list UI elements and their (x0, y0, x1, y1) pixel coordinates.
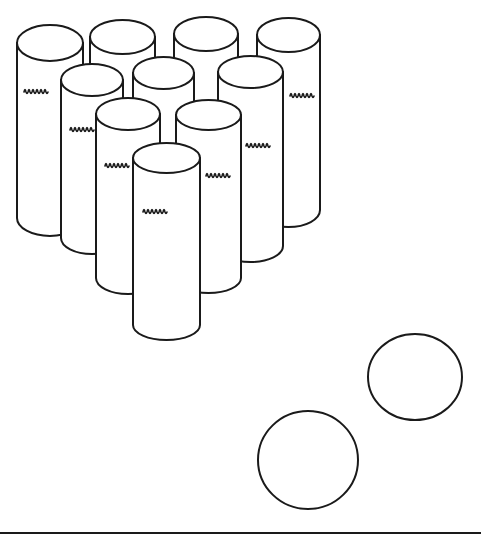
ball-near (258, 411, 358, 509)
bowling-pins-group (17, 17, 320, 340)
bowling-pin-front (133, 143, 200, 340)
bowling-scene-drawing (0, 0, 481, 538)
ball-far (368, 334, 462, 420)
balls-group (258, 334, 462, 509)
